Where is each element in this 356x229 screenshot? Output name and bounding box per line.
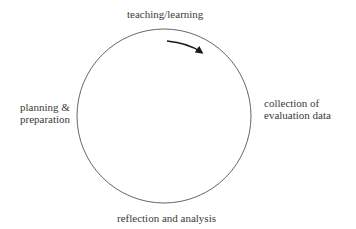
node-label-planning-and-preparation: planning & preparation: [20, 101, 70, 125]
node-label-teaching-learning: teaching/learning: [127, 8, 203, 20]
node-label-reflection-and-analysis: reflection and analysis: [117, 212, 216, 224]
cycle-diagram: teaching/learning collection of evaluati…: [0, 0, 356, 229]
cycle-circle: [77, 29, 251, 203]
node-label-collection-of-evaluation-data: collection of evaluation data: [264, 97, 331, 121]
node-label-line: collection of: [264, 97, 331, 109]
node-label-line: evaluation data: [264, 109, 331, 121]
node-label-line: reflection and analysis: [117, 212, 216, 224]
node-label-line: preparation: [20, 113, 70, 125]
node-label-line: planning &: [20, 101, 70, 113]
node-label-line: teaching/learning: [127, 8, 203, 20]
curved-arrow-icon: [167, 41, 201, 52]
